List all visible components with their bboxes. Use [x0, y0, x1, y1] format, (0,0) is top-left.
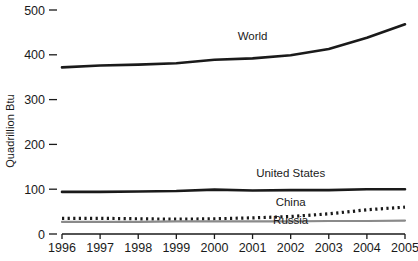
series-line-china: [62, 207, 405, 219]
x-tick-label: 2005: [391, 241, 418, 255]
x-tick-label: 2002: [277, 241, 305, 255]
y-tick-label: 0: [38, 228, 45, 242]
y-tick-label: 300: [24, 93, 45, 107]
x-tick-label: 2003: [315, 241, 343, 255]
x-tick-label: 1999: [162, 241, 190, 255]
x-tick-label-group: 1996199719981999200020012002200320042005: [48, 241, 418, 255]
series-line-united-states: [62, 189, 405, 192]
y-tick-mark-group: [49, 10, 57, 234]
x-tick-label: 2004: [353, 241, 381, 255]
y-tick-label-group: 0100200300400500: [24, 4, 45, 242]
x-axis-group: [62, 234, 405, 239]
series-group: [62, 24, 405, 222]
y-axis-title-text: Quadrillion Btu: [4, 94, 16, 168]
x-tick-label: 2000: [201, 241, 229, 255]
series-line-world: [62, 24, 405, 67]
series-label-world: World: [238, 30, 268, 42]
x-tick-label: 2001: [239, 241, 267, 255]
y-axis-title: Quadrillion Btu: [0, 0, 21, 261]
y-tick-label: 100: [24, 183, 45, 197]
y-tick-label: 200: [24, 138, 45, 152]
series-label-china: China: [276, 196, 307, 208]
y-tick-label: 400: [24, 48, 45, 62]
series-label-group: WorldUnited StatesChinaRussia: [238, 30, 326, 226]
energy-consumption-line-chart: Quadrillion Btu 0100200300400500 1996199…: [0, 0, 418, 261]
x-tick-label: 1996: [48, 241, 76, 255]
series-label-russia: Russia: [273, 214, 309, 226]
series-line-russia: [62, 221, 405, 222]
x-tick-label: 1997: [86, 241, 114, 255]
x-tick-label: 1998: [124, 241, 152, 255]
y-tick-label: 500: [24, 4, 45, 18]
series-label-united-states: United States: [256, 167, 325, 179]
plot-area: 0100200300400500 19961997199819992000200…: [0, 0, 418, 261]
